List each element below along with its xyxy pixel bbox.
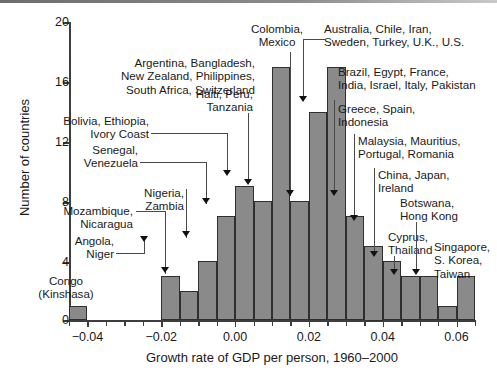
- x-tick-minor: [106, 320, 107, 326]
- annotation-greece: Greece, Spain, Indonesia: [338, 102, 458, 129]
- annotation-china: China, Japan, Ireland: [378, 168, 488, 195]
- histogram-bar: [309, 112, 327, 321]
- leader-australia-v: [303, 39, 304, 101]
- arrow-angola: [140, 236, 148, 242]
- x-tick-major: [457, 320, 458, 327]
- x-tick-minor: [290, 320, 291, 326]
- x-tick-major: [235, 320, 236, 327]
- y-tick-label-20: 20: [43, 16, 69, 28]
- arrow-mozambique: [161, 267, 169, 273]
- x-tick-minor: [217, 320, 218, 326]
- arrow-greece: [330, 190, 338, 196]
- annotation-botswana: Botswana, Hong Kong: [400, 196, 494, 223]
- x-tick-major: [309, 320, 310, 327]
- leader-china-v: [374, 168, 375, 254]
- leader-botswana-v: [416, 222, 417, 272]
- leader-greece-v: [334, 100, 335, 193]
- leader-colombia-v: [290, 52, 291, 196]
- annotation-mozambique: Mozambique, Nicaragua: [47, 204, 133, 231]
- x-tick-minor: [346, 320, 347, 326]
- histogram-bar: [346, 216, 364, 320]
- x-tick-minor: [180, 320, 181, 326]
- histogram-bar: [290, 201, 308, 320]
- x-tick-label: 0.04: [353, 330, 413, 344]
- histogram-bar: [198, 261, 216, 321]
- annotation-singapore: Singapore, S. Korea, Taiwan: [434, 240, 497, 280]
- arrow-china: [370, 251, 378, 257]
- x-tick-minor: [69, 320, 70, 326]
- annotation-brazil: Brazil, Egypt, France, India, Israel, It…: [338, 65, 497, 92]
- x-tick-label: 0.02: [279, 330, 339, 344]
- histogram-bar: [364, 246, 382, 321]
- y-axis-title: Number of countries: [17, 73, 32, 243]
- histogram-bar: [180, 291, 198, 321]
- annotation-argentina: Argentina, Bangladesh, New Zealand, Phil…: [110, 56, 255, 96]
- x-tick-minor: [254, 320, 255, 326]
- x-tick-major: [87, 320, 88, 327]
- x-tick-major: [161, 320, 162, 327]
- histogram-bar: [69, 306, 87, 321]
- histogram-bar: [401, 276, 419, 321]
- leader-angola: [116, 253, 145, 254]
- annotation-australia: Australia, Chile, Iran, Sweden, Turkey, …: [324, 22, 496, 49]
- arrow-cyprus: [390, 269, 398, 275]
- x-tick-minor: [143, 320, 144, 326]
- histogram-bar: [420, 276, 438, 321]
- annotation-congo: Congo (Kinshasa): [26, 274, 106, 301]
- arrow-haiti: [244, 179, 252, 185]
- x-tick-label: 0.00: [205, 330, 265, 344]
- y-tick-label-16: 16: [43, 76, 69, 88]
- x-tick-minor: [438, 320, 439, 326]
- histogram-bar: [254, 201, 272, 320]
- leader-senegal: [140, 162, 207, 163]
- histogram-bar: [438, 306, 456, 321]
- x-tick-label: −0.04: [57, 330, 117, 344]
- y-tick-16: 16: [0, 76, 69, 88]
- y-tick-20: 20: [0, 16, 69, 28]
- arrow-australia: [299, 96, 307, 102]
- x-tick-label: −0.02: [131, 330, 191, 344]
- x-axis-title: Growth rate of GDP per person, 1960–2000: [69, 350, 475, 365]
- histogram-bar: [217, 216, 235, 320]
- arrow-bolivia: [223, 170, 231, 176]
- annotation-colombia: Colombia, Mexico: [242, 22, 312, 49]
- x-tick-label: 0.06: [427, 330, 487, 344]
- y-tick-label-0: 0: [43, 314, 69, 326]
- y-tick-0: 0: [0, 314, 69, 326]
- annotation-bolivia: Bolivia, Ethiopia, Ivory Coast: [42, 114, 149, 141]
- x-tick-minor: [124, 320, 125, 326]
- annotation-malaysia: Malaysia, Mauritius, Portugal, Romania: [358, 134, 497, 161]
- histogram-bar: [161, 276, 179, 321]
- annotation-nigeria: Nigeria, Zambia: [126, 186, 184, 213]
- arrow-colombia: [286, 190, 294, 196]
- x-tick-minor: [420, 320, 421, 326]
- leader-haiti-v: [248, 113, 249, 179]
- x-tick-minor: [475, 320, 476, 326]
- leader-mozambique-v: [165, 211, 166, 274]
- histogram-plot: 20 16 12 8 4 0 Number of countries Growt…: [0, 0, 497, 374]
- x-tick-minor: [401, 320, 402, 326]
- x-tick-minor: [364, 320, 365, 326]
- leader-bolivia-v: [227, 133, 228, 170]
- annotation-angola: Angola, Niger: [56, 234, 114, 261]
- x-tick-minor: [198, 320, 199, 326]
- arrow-nigeria: [182, 231, 190, 237]
- x-tick-minor: [327, 320, 328, 326]
- histogram-bar: [235, 186, 253, 320]
- leader-bolivia: [151, 133, 228, 134]
- annotation-senegal: Senegal, Venezuela: [60, 143, 138, 170]
- x-tick-major: [383, 320, 384, 327]
- arrow-malaysia: [350, 215, 358, 221]
- leader-australia: [303, 39, 325, 40]
- arrow-botswana: [412, 269, 420, 275]
- x-tick-minor: [272, 320, 273, 326]
- arrow-senegal: [202, 198, 210, 204]
- leader-malaysia-v: [354, 134, 355, 218]
- histogram-bar: [457, 276, 475, 321]
